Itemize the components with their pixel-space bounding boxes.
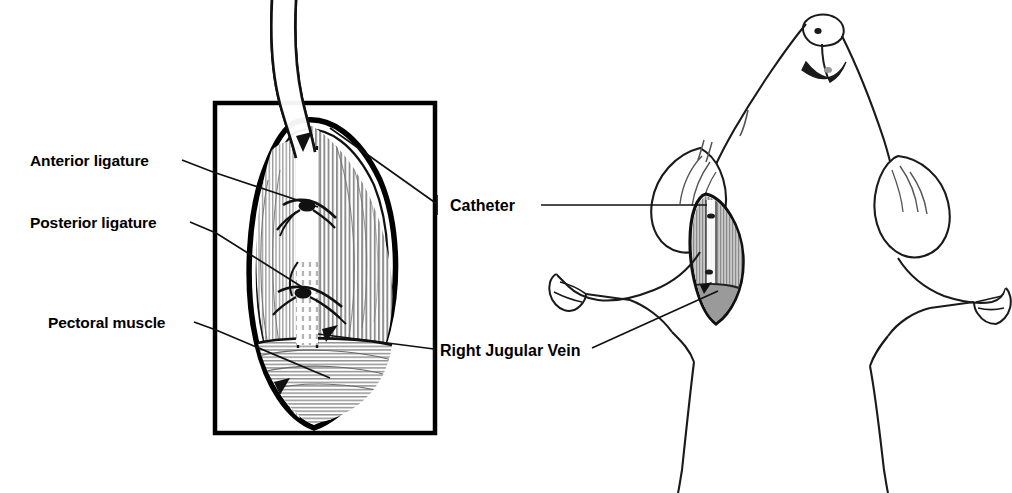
label-catheter: Catheter [450, 197, 515, 214]
label-right-jugular-vein: Right Jugular Vein [440, 342, 580, 359]
label-anterior-ligature: Anterior ligature [30, 152, 149, 169]
rat-snout [803, 15, 844, 46]
label-pectoral-muscle: Pectoral muscle [48, 314, 166, 331]
label-posterior-ligature: Posterior ligature [30, 214, 157, 231]
anatomical-illustration: Anterior ligature Posterior ligature Pec… [0, 0, 1012, 493]
figure-root: Anterior ligature Posterior ligature Pec… [0, 0, 1012, 493]
rat-nostril [814, 28, 821, 34]
rat-mouth-opening [824, 67, 832, 73]
